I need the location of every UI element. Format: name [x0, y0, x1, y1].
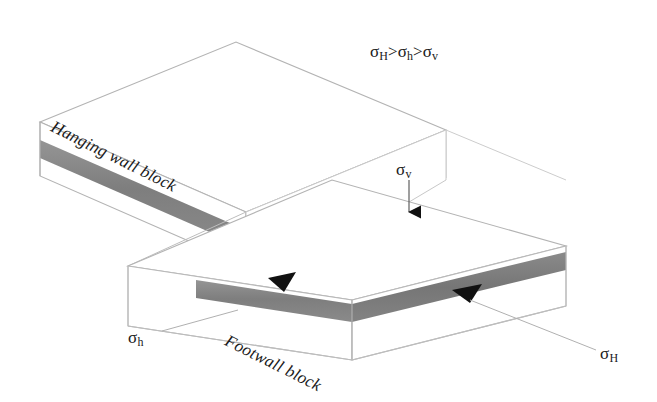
sigma-h-label: σh	[128, 328, 143, 350]
sigma-H-glyph: σ	[600, 344, 609, 363]
stress-inequality-label: σH>σh>σv	[370, 42, 438, 64]
sigma-H-subscript: H	[379, 49, 388, 63]
sigma-H-symbol: σ	[370, 42, 379, 61]
sigma-v-symbol: σ	[423, 42, 432, 61]
sigma-h-glyph: σ	[128, 328, 137, 347]
sigma-H-sub: H	[609, 351, 618, 365]
sigma-v-sub: v	[405, 167, 411, 181]
sigma-v-glyph: σ	[396, 160, 405, 179]
sigma-h-sub: h	[137, 335, 143, 349]
sigma-h-symbol: σ	[398, 42, 407, 61]
sigma-H-label: σH	[600, 344, 618, 366]
sigma-v-subscript: v	[432, 49, 438, 63]
fault-trace-right	[446, 130, 566, 180]
fault-block-diagram: Hanging wall block Footwall block σH>σh>…	[0, 0, 657, 402]
diagram-canvas	[0, 0, 657, 402]
greater-than-2: >	[413, 42, 423, 61]
greater-than-1: >	[388, 42, 398, 61]
sigma-v-label: σv	[396, 160, 411, 182]
